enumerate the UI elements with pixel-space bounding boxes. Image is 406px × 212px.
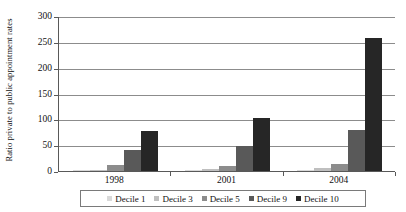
- bar: [107, 165, 124, 171]
- x-tick-label: 1998: [58, 175, 170, 185]
- bar: [297, 170, 314, 171]
- bar: [253, 118, 270, 171]
- legend-item: Decile 1: [107, 194, 145, 204]
- gridline: [59, 17, 395, 18]
- y-tick-label: 0: [18, 166, 52, 176]
- bar: [73, 170, 90, 171]
- legend-item: Decile 10: [296, 194, 339, 204]
- legend-item: Decile 3: [154, 194, 192, 204]
- bar: [124, 150, 141, 171]
- bar: [202, 169, 219, 171]
- bar-group: [284, 38, 396, 171]
- legend-label: Decile 5: [210, 194, 240, 204]
- y-tick-mark: [54, 172, 58, 173]
- bar-group: [171, 118, 283, 171]
- bar-chart-figure: Ratio private to public appointment rate…: [0, 0, 406, 212]
- bar: [141, 131, 158, 171]
- bar: [236, 146, 253, 171]
- y-axis-title-text: Ratio private to public appointment rate…: [4, 18, 14, 161]
- y-tick-label: 200: [18, 63, 52, 73]
- bar-group: [59, 131, 171, 171]
- bar: [365, 38, 382, 171]
- plot-area: [58, 17, 395, 172]
- legend-label: Decile 1: [115, 194, 145, 204]
- legend-label: Decile 9: [257, 194, 287, 204]
- y-tick-label: 100: [18, 114, 52, 124]
- legend-swatch-icon: [154, 196, 159, 201]
- legend-label: Decile 10: [304, 194, 339, 204]
- bar: [314, 168, 331, 171]
- legend-item: Decile 9: [249, 194, 287, 204]
- bar: [185, 170, 202, 171]
- legend-swatch-icon: [249, 196, 254, 201]
- y-tick-label: 300: [18, 11, 52, 21]
- legend-swatch-icon: [107, 196, 112, 201]
- legend-swatch-icon: [202, 196, 207, 201]
- chart-legend: Decile 1Decile 3Decile 5Decile 9Decile 1…: [80, 190, 366, 207]
- y-tick-label: 150: [18, 89, 52, 99]
- y-tick-label: 250: [18, 37, 52, 47]
- bar: [348, 130, 365, 171]
- legend-item: Decile 5: [202, 194, 240, 204]
- x-tick-label: 2004: [283, 175, 395, 185]
- bar: [90, 170, 107, 171]
- x-tick-mark: [395, 172, 396, 176]
- legend-label: Decile 3: [162, 194, 192, 204]
- bar: [219, 166, 236, 171]
- legend-swatch-icon: [296, 196, 301, 201]
- y-tick-label: 50: [18, 140, 52, 150]
- x-tick-label: 2001: [170, 175, 282, 185]
- bar: [331, 164, 348, 171]
- y-axis-title: Ratio private to public appointment rate…: [0, 0, 18, 180]
